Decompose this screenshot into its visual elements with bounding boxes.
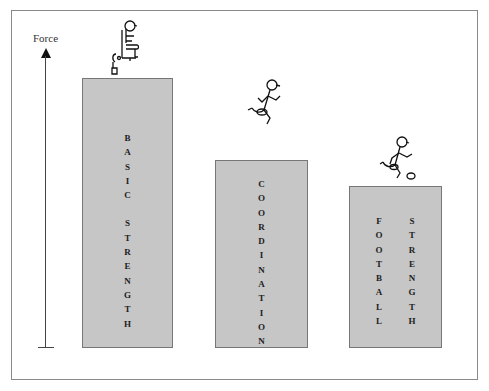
bar-letter: O <box>375 228 382 242</box>
bar-letter: H <box>409 314 416 328</box>
bar-letter: G <box>409 285 416 299</box>
bar-letter: O <box>375 243 382 257</box>
bar-label-strength: STRENGTH <box>409 214 416 347</box>
bar-letter: B <box>376 271 382 285</box>
bar-letter: L <box>376 314 382 328</box>
bar-letter: C <box>258 177 265 191</box>
bar-basic-strength: BASICSTRENGTH <box>82 78 173 348</box>
bar-label-football: FOOTBALL <box>375 214 382 347</box>
bar-letter: H <box>124 317 131 331</box>
bar-letter: N <box>409 271 416 285</box>
bar-letter: L <box>376 300 382 314</box>
bar-letter: N <box>258 263 265 277</box>
bar-letter: C <box>124 188 131 202</box>
bar-letter: R <box>258 220 265 234</box>
bar-letter: O <box>258 320 265 334</box>
bar-letter: R <box>409 243 416 257</box>
bar-letter: I <box>126 174 130 188</box>
bar-letter: T <box>409 300 415 314</box>
stick-figure-running-icon <box>240 76 288 130</box>
bar-letter: T <box>376 257 382 271</box>
bar-letter: T <box>124 231 130 245</box>
bar-letter: I <box>260 248 264 262</box>
bar-letter: G <box>124 288 131 302</box>
bar-letter: E <box>124 259 130 273</box>
bar-letter: F <box>376 214 382 228</box>
force-axis-line <box>45 56 46 347</box>
bar-letter: T <box>258 291 264 305</box>
arrow-up-icon <box>41 48 51 58</box>
axis-base-tick <box>38 347 54 348</box>
bar-letter: A <box>376 285 383 299</box>
bar-label-basic-strength: BASICSTRENGTH <box>124 131 131 347</box>
bar-coordination: COORDINATION <box>215 160 308 348</box>
bar-letter: E <box>409 257 415 271</box>
stick-figure-kicking-icon <box>372 132 422 184</box>
bar-letter: T <box>409 228 415 242</box>
bar-letter: O <box>258 191 265 205</box>
bar-letter: S <box>125 216 130 230</box>
bar-letter: B <box>124 131 130 145</box>
bar-letter: S <box>410 214 415 228</box>
bar-letter: N <box>258 334 265 348</box>
bar-letter: D <box>258 234 265 248</box>
axis-label-force: Force <box>33 32 58 44</box>
bar-letter: A <box>258 277 265 291</box>
bar-letter: R <box>124 245 131 259</box>
bar-letter: I <box>260 306 264 320</box>
bar-letter: N <box>124 274 131 288</box>
bar-letter: O <box>258 206 265 220</box>
bar-letter: A <box>124 145 131 159</box>
bar-letter: S <box>125 160 130 174</box>
bar-label-coordination: COORDINATION <box>258 177 265 347</box>
bar-football-strength: FOOTBALL STRENGTH <box>349 186 442 348</box>
stick-figure-seated-icon <box>104 16 144 78</box>
bar-letter: T <box>124 302 130 316</box>
